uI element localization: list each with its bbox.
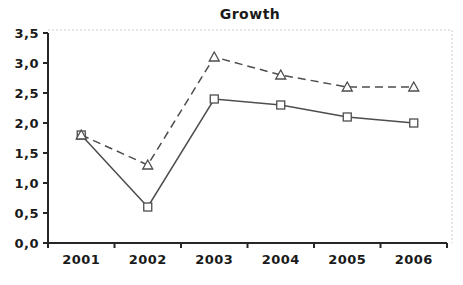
data-point-marker-square	[343, 113, 351, 121]
y-axis-tick-label: 2,0	[14, 116, 39, 131]
growth-chart: Growth 0,00,51,01,52,02,53,03,5200120022…	[0, 0, 463, 285]
data-point-marker-square	[410, 119, 418, 127]
data-point-marker-triangle	[143, 160, 153, 169]
series-line-triangle	[81, 57, 414, 165]
x-axis-tick-label: 2002	[129, 252, 167, 267]
y-axis-tick-label: 0,5	[14, 206, 39, 221]
series-line-square	[81, 99, 414, 207]
data-point-marker-triangle	[409, 82, 419, 91]
x-axis-tick-label: 2006	[395, 252, 433, 267]
data-point-marker-triangle	[209, 52, 219, 61]
line-plot-canvas: 0,00,51,01,52,02,53,03,52001200220032004…	[0, 0, 463, 285]
y-axis-tick-label: 1,0	[14, 176, 39, 191]
y-axis-tick-label: 3,5	[14, 26, 39, 41]
data-point-marker-square	[144, 203, 152, 211]
chart-title: Growth	[48, 6, 452, 22]
y-axis-tick-label: 2,5	[14, 86, 39, 101]
y-axis-tick-label: 1,5	[14, 146, 39, 161]
y-axis-tick-label: 0,0	[14, 236, 39, 251]
x-axis-tick-label: 2004	[262, 252, 300, 267]
x-axis-tick-label: 2001	[62, 252, 100, 267]
x-axis-tick-label: 2005	[328, 252, 366, 267]
data-point-marker-square	[210, 95, 218, 103]
data-point-marker-square	[277, 101, 285, 109]
y-axis-tick-label: 3,0	[14, 56, 39, 71]
x-axis-tick-label: 2003	[195, 252, 233, 267]
